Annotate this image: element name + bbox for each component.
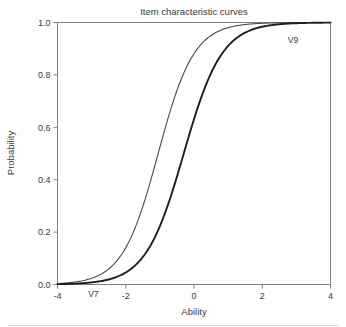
- y-tick-label: 0.6: [38, 123, 51, 133]
- x-tick-label: 2: [260, 291, 265, 301]
- chart-figure: Item characteristic curves -4-2024 0.00.…: [0, 0, 346, 327]
- curve-label-v7: V7: [88, 289, 99, 299]
- y-tick-label: 0.4: [38, 175, 51, 185]
- y-tick-label: 0.2: [38, 227, 51, 237]
- y-tick-label: 1.0: [38, 18, 51, 28]
- x-axis-label: Ability: [181, 306, 207, 317]
- curve-label-v9: V9: [288, 35, 299, 45]
- x-tick-label: -4: [53, 291, 61, 301]
- item-characteristic-curves-chart: Item characteristic curves -4-2024 0.00.…: [0, 0, 346, 327]
- y-tick-label: 0.8: [38, 70, 51, 80]
- chart-background: [0, 0, 346, 327]
- x-tick-label: 0: [191, 291, 196, 301]
- y-tick-label: 0.0: [38, 280, 51, 290]
- y-axis-label: Probability: [5, 131, 16, 176]
- page-title: Item characteristic curves: [140, 6, 248, 17]
- x-tick-label: 4: [328, 291, 333, 301]
- x-tick-label: -2: [122, 291, 130, 301]
